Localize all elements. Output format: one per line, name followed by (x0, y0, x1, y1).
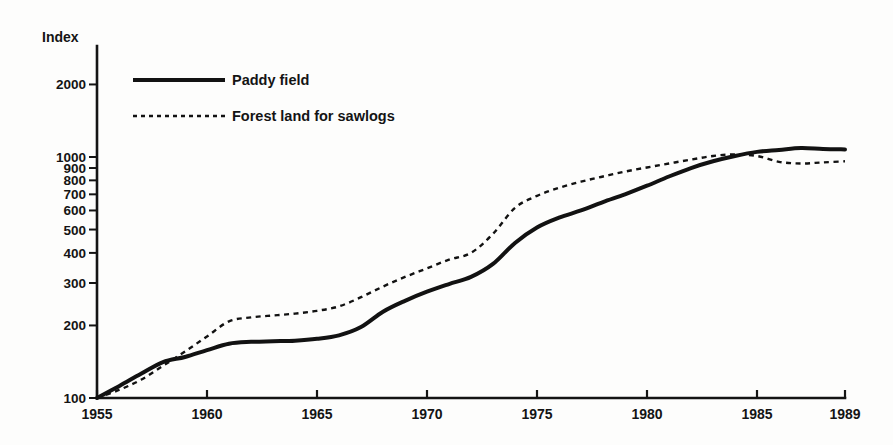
y-tick-label-1000: 1000 (56, 150, 86, 165)
x-axis-group: 19551960196519701975198019851989 (81, 390, 860, 422)
y-tick-label-700: 700 (63, 187, 86, 202)
y-tick-label-400: 400 (63, 246, 86, 261)
y-tick-label-200: 200 (63, 318, 86, 333)
x-tick-label-1985: 1985 (741, 406, 772, 422)
data-series-layer (97, 148, 845, 398)
x-tick-label-1960: 1960 (191, 406, 222, 422)
x-tick-label-1955: 1955 (81, 406, 112, 422)
y-tick-label-500: 500 (63, 223, 86, 238)
y-tick-label-300: 300 (63, 276, 86, 291)
y-tick-label-2000: 2000 (56, 77, 86, 92)
x-tick-label-1989: 1989 (829, 406, 860, 422)
chart-legend: Paddy fieldForest land for sawlogs (133, 72, 395, 124)
chart-container: 10020030040050060070080090010002000 1955… (0, 0, 893, 445)
x-tick-label-1965: 1965 (301, 406, 332, 422)
legend-label-paddy-field: Paddy field (232, 72, 309, 88)
y-tick-label-600: 600 (63, 203, 86, 218)
x-tick-label-1980: 1980 (631, 406, 662, 422)
y-tick-label-100: 100 (63, 391, 86, 406)
x-axis-tick-labels: 19551960196519701975198019851989 (81, 406, 860, 422)
y-axis-group: 10020030040050060070080090010002000 (56, 46, 97, 406)
x-tick-label-1975: 1975 (521, 406, 552, 422)
line-chart: 10020030040050060070080090010002000 1955… (0, 0, 893, 445)
y-axis-title: Index (42, 29, 79, 45)
series-line-paddy-field (97, 148, 845, 398)
legend-label-forest-land-for-sawlogs: Forest land for sawlogs (232, 108, 395, 124)
y-axis-tick-labels: 10020030040050060070080090010002000 (56, 77, 86, 406)
x-tick-label-1970: 1970 (411, 406, 442, 422)
